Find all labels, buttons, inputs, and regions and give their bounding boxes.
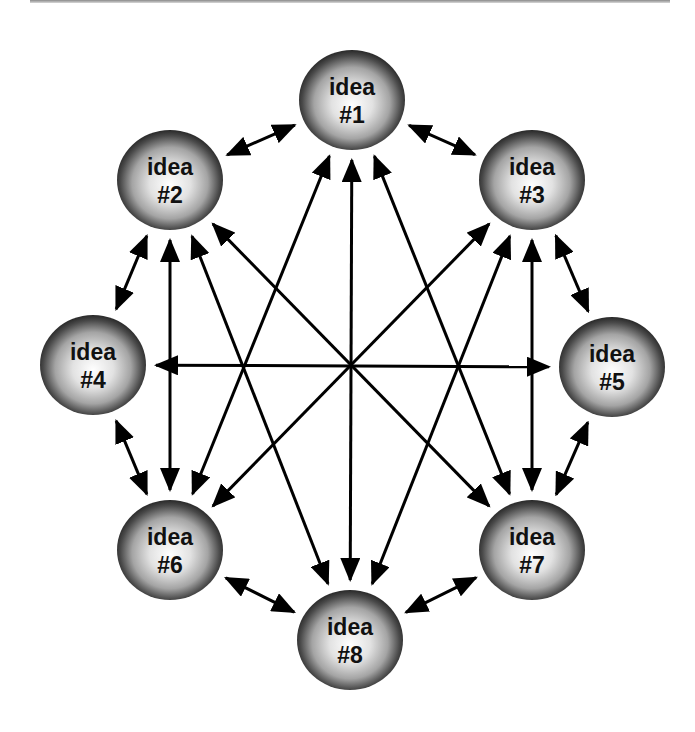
idea-node-7: idea#7 bbox=[479, 500, 585, 600]
arrow-idea-1-to-idea-3 bbox=[409, 125, 475, 154]
sphere-shape bbox=[40, 315, 146, 415]
sphere-shape bbox=[299, 50, 405, 150]
sphere-shape bbox=[479, 130, 585, 230]
node-label-line2: #5 bbox=[599, 369, 625, 395]
node-label-line1: idea bbox=[147, 154, 193, 180]
arrow-idea-6-to-idea-8 bbox=[226, 578, 294, 612]
idea-node-3: idea#3 bbox=[479, 130, 585, 230]
sphere-shape bbox=[117, 500, 223, 600]
arrow-idea-1-to-idea-8 bbox=[350, 160, 352, 580]
node-label-line2: #6 bbox=[157, 552, 183, 578]
idea-node-4: idea#4 bbox=[40, 315, 146, 415]
node-label-line2: #2 bbox=[157, 182, 183, 208]
idea-node-2: idea#2 bbox=[117, 130, 223, 230]
node-label-line1: idea bbox=[589, 341, 635, 367]
node-label-line1: idea bbox=[509, 524, 555, 550]
arrow-idea-5-to-idea-7 bbox=[556, 422, 588, 494]
node-label-line2: #4 bbox=[80, 367, 106, 393]
arrow-idea-2-to-idea-4 bbox=[116, 236, 147, 309]
idea-node-1: idea#1 bbox=[299, 50, 405, 150]
sphere-shape bbox=[117, 130, 223, 230]
idea-network-diagram: idea#1idea#2idea#3idea#4idea#5idea#6idea… bbox=[0, 0, 695, 732]
sphere-shape bbox=[479, 500, 585, 600]
node-label-line1: idea bbox=[329, 74, 375, 100]
arrow-idea-4-to-idea-6 bbox=[116, 421, 147, 494]
sphere-shape bbox=[559, 317, 665, 417]
idea-node-5: idea#5 bbox=[559, 317, 665, 417]
node-label-line1: idea bbox=[147, 524, 193, 550]
node-label-line1: idea bbox=[327, 614, 373, 640]
idea-node-8: idea#8 bbox=[297, 590, 403, 690]
node-label-line2: #7 bbox=[519, 552, 545, 578]
node-label-line2: #1 bbox=[339, 102, 365, 128]
node-label-line1: idea bbox=[509, 154, 555, 180]
arrow-idea-1-to-idea-2 bbox=[227, 125, 295, 155]
arrow-idea-7-to-idea-8 bbox=[406, 578, 476, 613]
arrow-idea-3-to-idea-5 bbox=[556, 236, 588, 312]
node-label-line2: #3 bbox=[519, 182, 545, 208]
node-label-line2: #8 bbox=[337, 642, 363, 668]
sphere-shape bbox=[297, 590, 403, 690]
idea-node-6: idea#6 bbox=[117, 500, 223, 600]
node-label-line1: idea bbox=[70, 339, 116, 365]
